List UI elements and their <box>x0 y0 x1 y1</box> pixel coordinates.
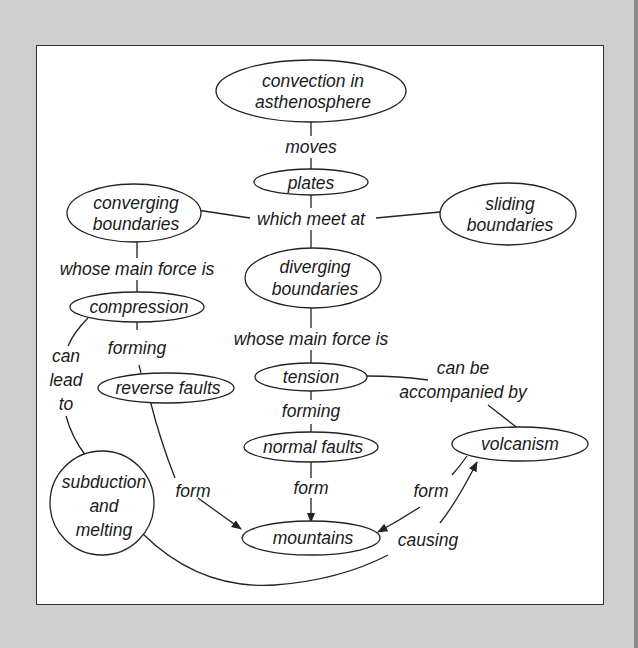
link-left-main-force: whose main force is <box>60 259 215 279</box>
link-accompanied-1: can be <box>437 358 490 378</box>
link-center-main-force: whose main force is <box>234 329 389 349</box>
svg-text:melting: melting <box>76 520 133 540</box>
link-which-meet-at: which meet at <box>257 209 366 229</box>
node-diverging: diverging boundaries <box>245 248 381 308</box>
edge-reverse-form <box>150 400 175 478</box>
svg-text:convection in: convection in <box>262 71 364 91</box>
link-can-lead-to-3: to <box>59 394 74 414</box>
svg-text:asthenosphere: asthenosphere <box>255 92 371 112</box>
svg-text:plates: plates <box>287 173 335 193</box>
node-volcanism: volcanism <box>452 427 588 461</box>
svg-text:reverse faults: reverse faults <box>115 378 220 398</box>
svg-text:boundaries: boundaries <box>467 215 554 235</box>
svg-text:volcanism: volcanism <box>481 434 559 454</box>
link-form-center: form <box>294 478 329 498</box>
svg-text:subduction: subduction <box>62 472 147 492</box>
link-form-right: form <box>414 481 449 501</box>
link-causing: causing <box>398 530 459 550</box>
node-compression: compression <box>70 292 204 322</box>
svg-text:boundaries: boundaries <box>272 279 359 299</box>
edge-meet-sliding <box>376 212 440 218</box>
link-forming-left: forming <box>108 338 167 358</box>
node-convection: convection in asthenosphere <box>216 60 406 122</box>
edge-compression-canlead <box>68 318 88 346</box>
edge-tension-accompanied <box>367 376 428 380</box>
svg-text:normal faults: normal faults <box>263 437 363 457</box>
link-accompanied-2: accompanied by <box>399 382 528 402</box>
edge-forming-reverse <box>139 365 141 373</box>
node-subduction: subduction and melting <box>50 451 154 555</box>
node-sliding: sliding boundaries <box>440 183 576 245</box>
svg-text:and: and <box>89 496 119 516</box>
link-form-left: form <box>176 481 211 501</box>
edge-canlead-subduction <box>66 416 86 456</box>
node-reverse-faults: reverse faults <box>98 373 234 403</box>
link-can-lead-to-2: lead <box>49 370 83 390</box>
link-can-lead-to-1: can <box>52 346 80 366</box>
concept-map: moves which meet at whose main force is … <box>0 0 638 648</box>
edge-volcanism-form <box>452 456 467 475</box>
edge-converging-meet <box>197 210 250 218</box>
edge-form-mountains-right <box>378 507 420 532</box>
edge-form-mountains-left <box>198 498 241 529</box>
edge-accompanied-volcanism <box>488 405 520 430</box>
svg-text:boundaries: boundaries <box>93 214 180 234</box>
link-moves: moves <box>285 137 337 157</box>
svg-text:mountains: mountains <box>273 528 354 548</box>
svg-text:converging: converging <box>93 193 179 213</box>
svg-text:tension: tension <box>283 367 339 387</box>
node-tension: tension <box>255 363 367 391</box>
svg-text:diverging: diverging <box>279 257 350 277</box>
node-converging: converging boundaries <box>67 184 201 242</box>
link-forming-center: forming <box>282 401 341 421</box>
svg-text:compression: compression <box>89 297 188 317</box>
svg-text:sliding: sliding <box>485 194 535 214</box>
node-normal-faults: normal faults <box>244 432 378 462</box>
node-plates: plates <box>254 169 368 195</box>
node-mountains: mountains <box>242 521 380 555</box>
